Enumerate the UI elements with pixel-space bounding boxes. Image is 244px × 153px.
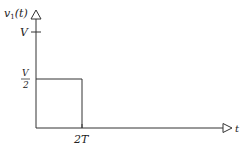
v-half-denominator: 2 [22, 80, 29, 90]
y-axis-arrow-icon [31, 10, 41, 19]
x-axis-label: t [235, 123, 240, 134]
y-axis-label: v1(t) [4, 7, 28, 21]
v-label: V [20, 26, 29, 39]
2t-label: 2T [73, 133, 90, 146]
x-axis-arrow-icon [223, 124, 232, 133]
signal-pulse [36, 79, 82, 128]
signal-diagram: v1(t) V V 2 2T t [0, 0, 244, 153]
v-half-numerator: V [22, 68, 30, 78]
